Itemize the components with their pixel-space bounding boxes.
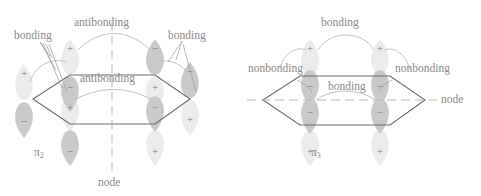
sign-bottom-right-inner: − [152,101,158,113]
figure-canvas: + − + − − + − + + − − + [0,0,481,196]
label-antibonding-top-pi2: antibonding [74,16,129,28]
sign-group-pi2: + − + − − + − + + − − + [21,42,193,157]
sign-bottom-left-lower: − [67,145,73,157]
label-nonbonding-right-pi3: nonbonding [395,62,450,74]
label-bonding-right-pi2: bonding [168,29,206,41]
orbital-label-pi2-sub: 2 [40,151,44,160]
label-nonbonding-left-pi3: nonbonding [248,62,303,74]
orbital-diagram-svg: + − + − − + − + + − − + [0,0,481,196]
sign-top-right-upper: − [152,42,158,54]
arc-antibonding-top-pi2 [78,34,150,51]
sign-top-left-upper: + [67,42,73,54]
sign-left-vertex-upper: + [21,67,27,79]
label-antibonding-inner-pi2: antibonding [80,72,135,84]
sign-top-left-inner-pi3: − [307,80,313,92]
sign-top-right-upper-pi3: + [377,42,383,54]
sign-bottom-right-lower-pi3: + [377,145,383,157]
leader-bonding-right-pi2 [168,41,182,62]
arc-bonding-top-pi3 [318,35,374,50]
label-bonding-left-pi2: bonding [14,29,52,41]
sign-right-vertex-lower: + [187,113,193,125]
orbital-label-pi2: π2 [34,146,44,160]
label-node-pi3: node [441,93,463,105]
sign-top-left-upper-pi3: + [307,42,313,54]
arc-bonding-inner-pi3 [316,91,375,100]
sign-bottom-left-inner: + [67,101,73,113]
panel-pi3: + + − − − − + + [247,35,437,166]
label-bonding-inner-pi3: bonding [328,80,366,92]
arc-bonding-left-pi2 [30,61,66,82]
orbital-label-pi3: π3 [311,146,321,160]
label-node-pi2: node [98,176,120,188]
sign-top-right-inner: + [152,81,158,93]
sign-top-right-inner-pi3: − [377,80,383,92]
sign-right-vertex-upper: − [187,65,193,77]
label-bonding-top-pi3: bonding [321,16,359,28]
sign-bottom-right-lower: + [152,145,158,157]
arc-antibonding-inner-pi2 [74,90,152,101]
sign-top-left-inner: − [67,81,73,93]
sign-left-vertex-lower: − [21,115,27,127]
sign-bottom-right-inner-pi3: − [377,106,383,118]
orbital-label-pi3-sub: 3 [317,151,321,160]
sign-bottom-left-inner-pi3: − [307,106,313,118]
